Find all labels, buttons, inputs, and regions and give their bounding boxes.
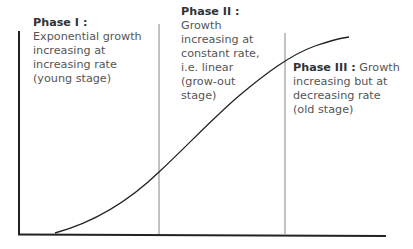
phase-1-title: Phase I : [33,16,142,30]
phase-3-line-1: increasing but at [293,75,400,89]
x-axis [18,235,386,237]
phase-3-title: Phase III : [293,61,356,74]
phase-2-title: Phase II : [181,5,259,19]
phase-3-label: Phase III : Growth increasing but at dec… [293,61,400,117]
phase-3-title-suffix: Growth [356,61,400,74]
phase-2-line-1: Growth [181,19,259,33]
phase-1-line-3: increasing rate [33,58,142,72]
phase-2-line-6: stage) [181,89,259,103]
phase-2-label: Phase II : Growth increasing at constant… [181,5,259,103]
phase-2-line-2: increasing at [181,33,259,47]
phase-3-line-3: (old stage) [293,103,400,117]
phase-2-line-5: (grow-out [181,75,259,89]
phase-2-line-3: constant rate, [181,47,259,61]
phase-3-line-2: decreasing rate [293,89,400,103]
phase-2-line-4: i.e. linear [181,61,259,75]
phase-1-line-1: Exponential growth [33,30,142,44]
phase-1-label: Phase I : Exponential growth increasing … [33,16,142,86]
phase-1-line-4: (young stage) [33,72,142,86]
phase-1-line-2: increasing at [33,44,142,58]
phase-3-title-line: Phase III : Growth [293,61,400,75]
